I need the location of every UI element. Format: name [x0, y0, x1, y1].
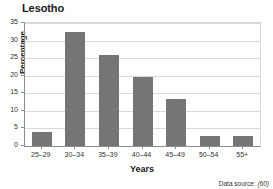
y-tick-mark: [21, 110, 24, 111]
y-tick-mark: [21, 127, 24, 128]
bar: [99, 55, 119, 146]
y-tick-label: 20: [2, 71, 18, 78]
y-tick-mark: [21, 57, 24, 58]
x-tick-mark: [242, 146, 243, 149]
plot-area: [24, 22, 261, 147]
bar: [133, 77, 153, 146]
y-tick-mark: [21, 22, 24, 23]
bar: [32, 132, 52, 146]
gridline: [25, 23, 260, 24]
x-tick-mark: [175, 146, 176, 149]
y-tick-label: 15: [2, 88, 18, 95]
y-tick-mark: [21, 40, 24, 41]
chart-figure: Lesotho Percentage 05101520253035 25–293…: [0, 0, 273, 189]
x-tick-mark: [209, 146, 210, 149]
y-tick-label: 0: [2, 141, 18, 148]
data-source-label: Data source:: [219, 180, 256, 187]
x-tick-mark: [108, 146, 109, 149]
gridline: [25, 41, 260, 42]
y-tick-mark: [21, 92, 24, 93]
gridline: [25, 58, 260, 59]
x-tick-mark: [74, 146, 75, 149]
bar: [65, 32, 85, 146]
bar: [200, 136, 220, 146]
y-tick-label: 35: [2, 18, 18, 25]
y-tick-mark: [21, 145, 24, 146]
x-tick-mark: [142, 146, 143, 149]
y-tick-label: 10: [2, 106, 18, 113]
y-tick-mark: [21, 75, 24, 76]
data-source-note: Data source: (60): [219, 180, 269, 187]
y-tick-label: 25: [2, 53, 18, 60]
x-axis-label: Years: [24, 164, 260, 174]
bar: [233, 136, 253, 146]
x-tick-label: 55+: [222, 151, 262, 158]
data-source-reference: (60): [257, 180, 269, 187]
y-tick-label: 5: [2, 123, 18, 130]
y-tick-label: 30: [2, 36, 18, 43]
x-tick-mark: [41, 146, 42, 149]
bar: [166, 99, 186, 146]
chart-title: Lesotho: [22, 2, 64, 14]
